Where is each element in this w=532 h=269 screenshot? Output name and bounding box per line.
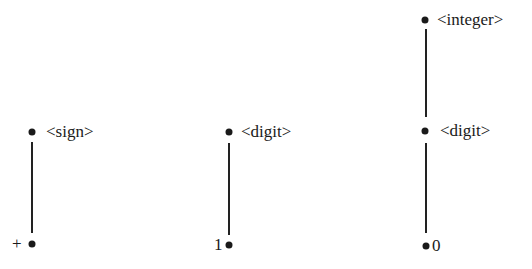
node-dot-zero	[423, 243, 430, 250]
edge-integer-digit	[425, 29, 427, 117]
node-label-digit: <digit>	[241, 123, 291, 140]
node-dot-sign	[29, 129, 36, 136]
parse-tree-diagram: <sign> + <digit> 1 <integer> <digit> 0	[0, 0, 532, 269]
node-label-digit-2: <digit>	[440, 122, 490, 139]
node-dot-digit-2	[422, 128, 429, 135]
node-label-plus: +	[12, 235, 22, 252]
node-label-one: 1	[214, 236, 223, 253]
node-dot-plus	[29, 241, 36, 248]
node-label-zero: 0	[432, 237, 441, 254]
node-label-integer: <integer>	[437, 11, 503, 28]
node-dot-integer	[422, 17, 429, 24]
node-dot-one	[226, 242, 233, 249]
node-dot-digit	[226, 129, 233, 136]
node-label-sign: <sign>	[46, 123, 94, 140]
edge-digit-one	[228, 143, 230, 235]
edge-digit-zero	[425, 143, 427, 233]
edge-sign-plus	[31, 142, 33, 233]
